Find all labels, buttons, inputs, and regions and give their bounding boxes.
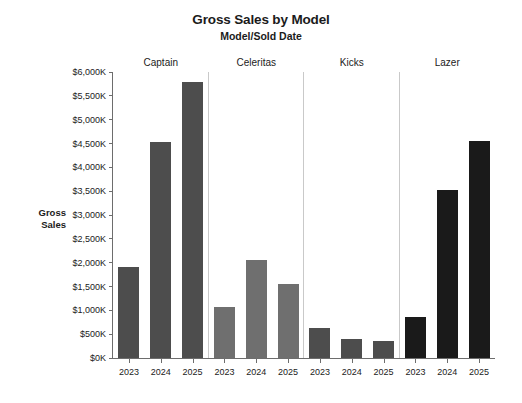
facet-header-celeritas: Celeritas xyxy=(209,56,305,72)
x-axis-tick-mark xyxy=(224,359,225,363)
x-axis-tick-mark xyxy=(447,359,448,363)
y-axis-tick: $3,500K xyxy=(72,185,113,197)
bar-slot xyxy=(431,72,463,358)
x-axis-label: 2024 xyxy=(240,359,272,381)
facet-panels xyxy=(113,72,495,358)
x-axis-tick-mark xyxy=(479,359,480,363)
bar-slot xyxy=(368,72,400,358)
y-axis-tick-label: $1,500K xyxy=(72,282,109,292)
x-axis-tick-mark xyxy=(352,359,353,363)
facet-header-kicks: Kicks xyxy=(304,56,400,72)
bar-slot xyxy=(177,72,209,358)
facet-panel-celeritas xyxy=(209,72,305,358)
bar-slot xyxy=(145,72,177,358)
bar-slot xyxy=(304,72,336,358)
y-axis-tick-label: $2,000K xyxy=(72,258,109,268)
y-axis-tick-label: $5,500K xyxy=(72,91,109,101)
x-axis-tick-mark xyxy=(129,359,130,363)
x-axis-labels: 2023202420252023202420252023202420252023… xyxy=(113,359,495,381)
y-axis-tick-label: $500K xyxy=(80,329,109,339)
x-axis-tick-mark xyxy=(320,359,321,363)
bar-lazer-2023[interactable] xyxy=(405,317,426,358)
x-axis-tick-mark xyxy=(384,359,385,363)
facet-panel-kicks xyxy=(304,72,400,358)
y-axis-tick-label: $3,000K xyxy=(72,210,109,220)
x-axis-group-lazer: 202320242025 xyxy=(400,359,496,381)
facet-header-lazer: Lazer xyxy=(400,56,496,72)
facet-panel-lazer xyxy=(400,72,496,358)
x-axis-label: 2025 xyxy=(463,359,495,381)
page-title: Gross Sales by Model xyxy=(0,12,522,28)
y-axis-tick: $6,000K xyxy=(72,66,113,78)
y-axis-ticks: $6,000K$5,500K$5,000K$4,500K$4,000K$3,50… xyxy=(0,72,113,358)
x-axis-group-celeritas: 202320242025 xyxy=(209,359,305,381)
x-axis-tick-mark xyxy=(415,359,416,363)
y-axis-tick: $1,000K xyxy=(72,304,113,316)
bar-captain-2023[interactable] xyxy=(118,267,139,358)
y-axis-tick-label: $1,000K xyxy=(72,305,109,315)
y-axis-tick: $0K xyxy=(90,352,113,364)
bar-slot xyxy=(400,72,432,358)
plot-area xyxy=(113,72,495,358)
bar-celeritas-2023[interactable] xyxy=(214,307,235,358)
chart-root: Gross Sales by Model Model/Sold Date Cap… xyxy=(0,0,522,403)
bar-lazer-2024[interactable] xyxy=(437,190,458,358)
x-axis-label: 2023 xyxy=(400,359,432,381)
x-axis-tick-mark xyxy=(256,359,257,363)
y-axis-tick-label: $2,500K xyxy=(72,234,109,244)
facet-panel-captain xyxy=(113,72,209,358)
bar-slot xyxy=(113,72,145,358)
bar-celeritas-2024[interactable] xyxy=(246,260,267,358)
y-axis-tick: $3,000K xyxy=(72,209,113,221)
bar-captain-2025[interactable] xyxy=(182,82,203,358)
bar-slot xyxy=(463,72,495,358)
chart-subtitle: Model/Sold Date xyxy=(0,29,522,43)
x-axis-label: 2024 xyxy=(336,359,368,381)
bar-slot xyxy=(209,72,241,358)
bar-slot xyxy=(240,72,272,358)
x-axis-label: 2023 xyxy=(209,359,241,381)
y-axis-tick: $5,000K xyxy=(72,114,113,126)
x-axis-label: 2023 xyxy=(304,359,336,381)
y-axis-tick: $2,500K xyxy=(72,233,113,245)
bar-kicks-2023[interactable] xyxy=(309,328,330,358)
x-axis-tick-mark xyxy=(193,359,194,363)
bar-celeritas-2025[interactable] xyxy=(278,284,299,358)
y-axis-tick-label: $4,000K xyxy=(72,162,109,172)
y-axis-tick: $5,500K xyxy=(72,90,113,102)
y-axis-tick: $4,000K xyxy=(72,161,113,173)
bar-lazer-2025[interactable] xyxy=(469,141,490,358)
x-axis-tick-mark xyxy=(288,359,289,363)
y-axis-tick: $2,000K xyxy=(72,257,113,269)
x-axis-label: 2023 xyxy=(113,359,145,381)
x-axis-group-captain: 202320242025 xyxy=(113,359,209,381)
x-axis-label: 2025 xyxy=(177,359,209,381)
x-axis-label: 2025 xyxy=(272,359,304,381)
bar-slot xyxy=(272,72,304,358)
bar-kicks-2025[interactable] xyxy=(373,341,394,358)
y-axis-tick-label: $4,500K xyxy=(72,139,109,149)
bar-slot xyxy=(336,72,368,358)
x-axis-label: 2025 xyxy=(368,359,400,381)
bar-kicks-2024[interactable] xyxy=(341,339,362,358)
x-axis-group-kicks: 202320242025 xyxy=(304,359,400,381)
facet-header-row: CaptainCeleritasKicksLazer xyxy=(113,56,495,72)
y-axis-tick-label: $3,500K xyxy=(72,186,109,196)
facet-header-captain: Captain xyxy=(113,56,209,72)
x-axis-label: 2024 xyxy=(145,359,177,381)
y-axis-tick: $4,500K xyxy=(72,138,113,150)
y-axis-tick-label: $0K xyxy=(90,353,109,363)
y-axis-tick: $1,500K xyxy=(72,281,113,293)
bar-captain-2024[interactable] xyxy=(150,142,171,358)
x-axis-tick-mark xyxy=(161,359,162,363)
y-axis-tick-label: $5,000K xyxy=(72,115,109,125)
chart-title-block: Gross Sales by Model Model/Sold Date xyxy=(0,12,522,43)
x-axis-label: 2024 xyxy=(431,359,463,381)
y-axis-tick-label: $6,000K xyxy=(72,67,109,77)
y-axis-tick: $500K xyxy=(80,328,113,340)
